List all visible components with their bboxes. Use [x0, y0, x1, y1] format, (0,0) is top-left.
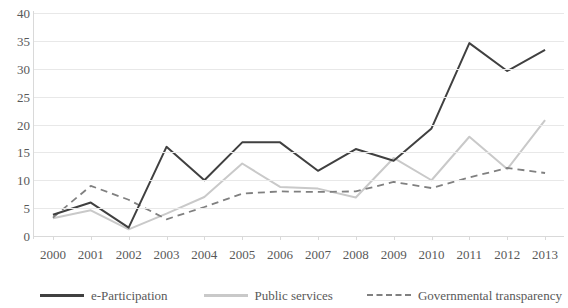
legend-item[interactable]: Governmental transparency	[367, 289, 562, 302]
x-tick-label: 2005	[229, 248, 255, 261]
y-tick-label: 35	[17, 34, 30, 47]
gridline	[34, 208, 564, 209]
legend-swatch	[204, 290, 248, 300]
y-tick-label: 20	[17, 118, 30, 131]
x-tick	[318, 236, 319, 240]
x-tick	[129, 236, 130, 240]
chart-legend: e-ParticipationPublic servicesGovernment…	[0, 282, 568, 308]
x-tick-label: 2009	[381, 248, 407, 261]
series-line-governmental-transparency	[53, 168, 545, 219]
x-tick	[394, 236, 395, 240]
x-tick	[545, 236, 546, 240]
x-tick-label: 2004	[191, 248, 217, 261]
gridline	[34, 125, 564, 126]
x-tick	[204, 236, 205, 240]
y-tick-label: 30	[17, 62, 30, 75]
x-tick-label: 2002	[116, 248, 142, 261]
x-tick	[356, 236, 357, 240]
legend-label: e-Participation	[91, 289, 168, 302]
gridline	[34, 69, 564, 70]
x-tick-label: 2011	[457, 248, 483, 261]
y-tick-label: 10	[17, 174, 30, 187]
x-tick-label: 2007	[305, 248, 331, 261]
x-tick	[167, 236, 168, 240]
legend-item[interactable]: e-Participation	[40, 289, 168, 302]
legend-label: Public services	[255, 289, 333, 302]
y-axis: 0510152025303540	[0, 0, 30, 250]
line-chart: 0510152025303540 20002001200220032004200…	[0, 0, 568, 308]
x-tick-label: 2010	[419, 248, 445, 261]
x-tick	[53, 236, 54, 240]
x-tick	[280, 236, 281, 240]
legend-label: Governmental transparency	[418, 289, 562, 302]
x-tick-label: 2000	[40, 248, 66, 261]
x-tick	[242, 236, 243, 240]
y-tick-label: 5	[24, 202, 31, 215]
gridline	[34, 41, 564, 42]
x-tick	[91, 236, 92, 240]
legend-swatch	[40, 290, 84, 300]
x-tick	[469, 236, 470, 240]
plot-area	[34, 13, 564, 236]
x-tick-label: 2013	[532, 248, 558, 261]
x-tick-label: 2006	[267, 248, 293, 261]
gridline	[34, 236, 564, 237]
y-tick-label: 0	[24, 230, 31, 243]
y-tick-label: 25	[17, 90, 30, 103]
x-tick-label: 2008	[343, 248, 369, 261]
gridline	[34, 152, 564, 153]
legend-item[interactable]: Public services	[204, 289, 333, 302]
plot-wrapper: 0510152025303540 20002001200220032004200…	[0, 0, 568, 250]
x-tick-label: 2012	[494, 248, 520, 261]
x-tick	[507, 236, 508, 240]
gridline	[34, 97, 564, 98]
series-line-public-services	[53, 120, 545, 229]
gridline	[34, 13, 564, 14]
x-tick	[432, 236, 433, 240]
x-tick-label: 2001	[78, 248, 104, 261]
y-tick-label: 40	[17, 7, 30, 20]
legend-swatch	[367, 290, 411, 300]
gridline	[34, 180, 564, 181]
x-tick-label: 2003	[154, 248, 180, 261]
x-axis: 2000200120022003200420052006200720082009…	[34, 248, 564, 272]
y-tick-label: 15	[17, 146, 30, 159]
